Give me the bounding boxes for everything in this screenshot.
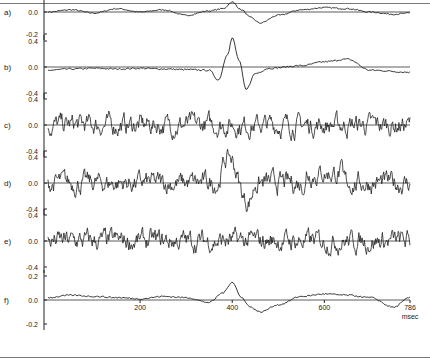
x-tick-label: 600	[318, 304, 330, 311]
y-tick-label: 0.0	[28, 9, 38, 16]
panel-label: e)	[4, 237, 11, 246]
y-tick-label: 0.4	[28, 212, 38, 219]
panel-label: b)	[4, 63, 11, 72]
y-tick-label: -0.2	[26, 31, 38, 38]
y-tick-label: -0.2	[26, 321, 38, 328]
y-tick-label: 0.4	[28, 96, 38, 103]
panel-label: f)	[4, 296, 9, 305]
y-tick-label: 0.0	[28, 238, 38, 245]
trace-d	[48, 149, 410, 211]
panel-label: a)	[4, 8, 11, 17]
panel-label: c)	[4, 121, 11, 130]
panel-label: d)	[4, 179, 11, 188]
waveform-chart: 0.20.0-0.2a)0.40.0-0.4b)0.40.0-0.4c)0.40…	[0, 0, 430, 364]
x-tick-label: 786	[404, 304, 416, 311]
trace-b	[48, 38, 410, 89]
y-tick-label: -0.4	[26, 264, 38, 271]
y-tick-label: 0.0	[28, 297, 38, 304]
y-tick-label: 0.0	[28, 180, 38, 187]
trace-e	[48, 227, 410, 256]
x-unit-label: msec	[402, 313, 419, 320]
x-tick-label: 200	[134, 304, 146, 311]
y-tick-label: 0.0	[28, 64, 38, 71]
y-tick-label: 0.2	[28, 273, 38, 280]
y-tick-label: 0.0	[28, 122, 38, 129]
trace-c	[48, 111, 410, 141]
trace-a	[48, 2, 410, 24]
y-tick-label: 0.4	[28, 38, 38, 45]
y-tick-label: 0.4	[28, 154, 38, 161]
x-tick-label: 400	[226, 304, 238, 311]
